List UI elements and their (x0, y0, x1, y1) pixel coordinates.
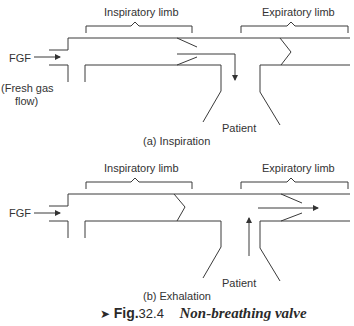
inlet-top-stub (49, 194, 350, 206)
inspiratory-valve-closed (174, 194, 185, 221)
inlet-bottom-stub (49, 65, 68, 82)
panel-b-subtitle: (b) Exhalation (143, 290, 211, 302)
fgf-note-line1: (Fresh gas (1, 82, 54, 94)
inlet-top-stub (49, 38, 350, 50)
panel-a-diagram (34, 22, 350, 125)
expiratory-valve-flap-lower (281, 213, 302, 221)
patient-label-a: Patient (222, 122, 256, 134)
expiratory-valve-closed (280, 38, 291, 65)
caption-title: Non-breathing valve (180, 305, 307, 321)
figure-caption: ➤ Fig.32.4 Non-breathing valve (100, 305, 307, 322)
inspiratory-limb-label-a: Inspiratory limb (104, 6, 179, 18)
caption-number: 32.4 (139, 306, 164, 321)
inspiratory-valve-flap-upper (177, 38, 197, 47)
panel-a-subtitle: (a) Inspiration (143, 135, 210, 147)
right-lower-wall (260, 65, 350, 125)
expiratory-bracket (241, 178, 348, 189)
inlet-bottom-stub (49, 221, 68, 238)
inspiratory-limb-label-b: Inspiratory limb (104, 162, 179, 174)
fgf-note-line2: flow) (15, 95, 38, 107)
fgf-label-a: FGF (9, 52, 31, 64)
inner-lower-wall (85, 65, 221, 122)
inspiratory-valve-flap-lower (177, 57, 197, 65)
inspiratory-bracket (86, 22, 192, 33)
fgf-label-b: FGF (9, 207, 31, 219)
panel-b-diagram (34, 178, 350, 281)
expiratory-limb-label-b: Expiratory limb (262, 162, 335, 174)
caption-marker-icon: ➤ (100, 307, 110, 321)
inner-lower-wall (85, 221, 221, 278)
patient-label-b: Patient (222, 277, 256, 289)
expiratory-bracket (241, 22, 348, 33)
caption-label: Fig. (114, 305, 139, 321)
inspiration-flow-arrow (177, 54, 235, 80)
right-lower-wall (260, 221, 350, 281)
expiratory-limb-label-a: Expiratory limb (262, 6, 335, 18)
expiratory-valve-flap-upper (281, 194, 302, 203)
inspiratory-bracket (86, 178, 192, 189)
